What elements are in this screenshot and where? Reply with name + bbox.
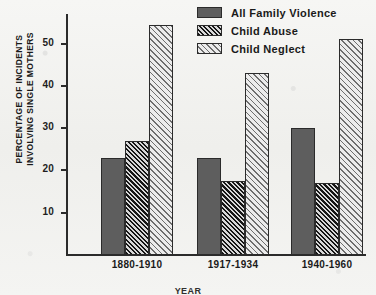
legend: All Family ViolenceChild AbuseChild Negl…	[197, 4, 337, 58]
bar	[221, 181, 245, 255]
bar	[101, 158, 125, 255]
legend-label: Child Neglect	[231, 43, 305, 55]
chart-figure: PERCENTAGE OF INCIDENTS INVOLVING SINGLE…	[0, 0, 376, 295]
legend-item: All Family Violence	[197, 4, 337, 21]
legend-label: Child Abuse	[231, 25, 298, 37]
legend-swatch	[197, 7, 222, 18]
legend-swatch	[197, 25, 222, 36]
bar	[149, 25, 173, 255]
x-axis-tick-label: 1917-1934	[188, 259, 278, 270]
y-axis-tick-label: 30	[14, 121, 54, 132]
bar	[339, 39, 363, 255]
bar	[125, 141, 149, 255]
bar	[197, 158, 221, 255]
x-axis-title: YEAR	[0, 286, 376, 295]
y-axis-tick-label: 10	[14, 206, 54, 217]
legend-item: Child Neglect	[197, 40, 337, 57]
legend-item: Child Abuse	[197, 22, 337, 39]
bar	[291, 128, 315, 255]
bar	[315, 183, 339, 255]
y-axis-tick-label: 20	[14, 163, 54, 174]
legend-swatch	[197, 43, 222, 54]
x-axis-tick-label: 1940-1960	[282, 259, 372, 270]
legend-label: All Family Violence	[231, 7, 337, 19]
x-axis-tick-label: 1880-1910	[92, 259, 182, 270]
y-axis-tick-label: 40	[14, 79, 54, 90]
y-axis-tick-label: 50	[14, 37, 54, 48]
bar	[245, 73, 269, 255]
